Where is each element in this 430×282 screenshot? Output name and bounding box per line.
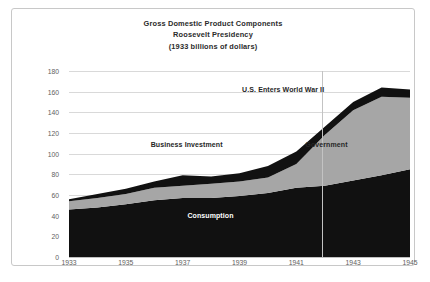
y-axis-tick-label: 80 xyxy=(51,171,59,178)
y-axis-tick-label: 160 xyxy=(48,88,59,95)
x-axis-tick-label: 1937 xyxy=(175,259,190,266)
annotation-u-s-enters-world-war-ii: U.S. Enters World War II xyxy=(242,85,324,92)
wwii-marker-line xyxy=(322,71,323,257)
annotation-consumption: Consumption xyxy=(187,212,233,219)
y-axis-tick-label: 20 xyxy=(51,233,59,240)
x-axis-tick-label: 1945 xyxy=(402,259,417,266)
y-axis-tick-label: 60 xyxy=(51,192,59,199)
x-axis-tick-label: 1941 xyxy=(289,259,304,266)
y-axis-tick-label: 100 xyxy=(48,150,59,157)
x-axis-tick-label: 1935 xyxy=(118,259,133,266)
x-axis-tick-label: 1939 xyxy=(232,259,247,266)
gridline xyxy=(69,257,410,258)
x-axis-tick-label: 1933 xyxy=(61,259,76,266)
y-axis-tick-label: 180 xyxy=(48,68,59,75)
chart-subtitle: Roosevelt Presidency xyxy=(12,29,414,40)
y-axis-tick-label: 120 xyxy=(48,130,59,137)
x-axis-tick-label: 1943 xyxy=(346,259,361,266)
y-axis-tick-label: 40 xyxy=(51,212,59,219)
y-axis-tick-label: 140 xyxy=(48,109,59,116)
annotation-business-investment: Business Investment xyxy=(151,141,223,148)
stacked-area-series xyxy=(69,71,410,257)
chart-frame: Gross Domestic Product Components Roosev… xyxy=(11,8,415,266)
chart-title: Gross Domestic Product Components xyxy=(12,18,414,29)
y-axis-labels: 020406080100120140160180 xyxy=(12,71,64,257)
annotation-government: Government xyxy=(305,141,347,148)
x-axis-labels: 1933193519371939194119431945 xyxy=(69,259,410,273)
y-axis-tick-label: 0 xyxy=(55,254,59,261)
plot-area: U.S. Enters World War IIBusiness Investm… xyxy=(69,71,410,257)
chart-units: (1933 billions of dollars) xyxy=(12,41,414,52)
chart-title-block: Gross Domestic Product Components Roosev… xyxy=(12,18,414,52)
